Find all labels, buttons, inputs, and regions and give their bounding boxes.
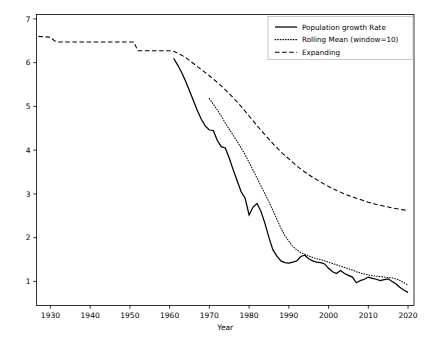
x-tick-label: 1950 [120, 311, 139, 320]
y-tick-label: 2 [26, 233, 31, 242]
y-tick-label: 4 [26, 146, 31, 155]
x-axis-title: Year [216, 323, 234, 332]
y-tick-label: 6 [26, 58, 31, 67]
x-tick-label: 1960 [160, 311, 179, 320]
data-series-layer [38, 36, 408, 292]
axes-layer: 1930194019501960197019801990200020102020… [26, 15, 418, 332]
y-tick-label: 1 [26, 277, 31, 286]
x-tick-label: 1940 [81, 311, 100, 320]
series-line-2 [38, 36, 408, 210]
figure-canvas: 1930194019501960197019801990200020102020… [0, 0, 429, 348]
x-tick-label: 1980 [240, 311, 259, 320]
y-tick-label: 5 [26, 102, 31, 111]
line-chart: 1930194019501960197019801990200020102020… [0, 0, 429, 348]
legend-label-1: Rolling Mean (window=10) [302, 35, 399, 44]
x-tick-label: 2010 [359, 311, 378, 320]
chart-legend: Population growth RateRolling Mean (wind… [268, 17, 413, 60]
legend-label-0: Population growth Rate [302, 23, 386, 32]
y-tick-label: 7 [26, 15, 31, 24]
x-tick-label: 2020 [398, 311, 417, 320]
y-tick-label: 3 [26, 190, 31, 199]
x-tick-label: 2000 [319, 311, 338, 320]
series-line-1 [209, 99, 408, 285]
x-tick-label: 1970 [200, 311, 219, 320]
x-tick-label: 1930 [41, 311, 60, 320]
legend-label-2: Expanding [302, 48, 340, 57]
x-tick-label: 1990 [279, 311, 298, 320]
series-line-0 [174, 58, 408, 292]
